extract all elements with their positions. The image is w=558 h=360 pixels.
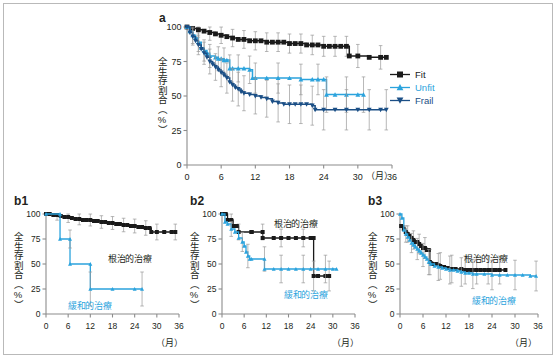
axis-title-y-b1: 全生存割合（%） xyxy=(13,232,23,309)
svg-text:25: 25 xyxy=(207,284,217,294)
chart-b1-plot: 0255075100061218243036 xyxy=(10,194,190,356)
annotation-curative-b2: 根治的治療 xyxy=(274,217,318,230)
panel-label-b3: b3 xyxy=(368,194,382,208)
svg-text:18: 18 xyxy=(464,321,474,331)
svg-text:75: 75 xyxy=(207,234,217,244)
panel-a: a 全生存割合（%） （月） 0255075100061218243036 xyxy=(147,9,407,189)
legend-label-fit: Fit xyxy=(415,69,426,80)
svg-text:0: 0 xyxy=(176,160,181,170)
svg-text:24: 24 xyxy=(130,321,140,331)
panel-label-a: a xyxy=(159,11,166,25)
legend-item-frail: Frail xyxy=(389,94,435,107)
axis-title-y-b2: 全生存割合（%） xyxy=(189,232,199,309)
axis-title-x-b3: （月） xyxy=(510,336,537,349)
annotation-palliative-b3: 緩和的治療 xyxy=(472,294,516,307)
svg-text:6: 6 xyxy=(421,321,426,331)
svg-text:24: 24 xyxy=(319,172,329,182)
annotation-palliative-b2: 緩和的治療 xyxy=(284,288,328,301)
svg-text:24: 24 xyxy=(306,321,316,331)
svg-text:30: 30 xyxy=(152,321,162,331)
legend-label-unfit: Unfit xyxy=(415,82,435,93)
svg-text:36: 36 xyxy=(350,321,360,331)
svg-text:12: 12 xyxy=(441,321,451,331)
chart-a-legend: Fit Unfit Frail xyxy=(389,68,435,107)
legend-swatch-fit xyxy=(389,69,411,80)
svg-text:0: 0 xyxy=(390,309,395,319)
svg-text:18: 18 xyxy=(284,321,294,331)
svg-text:18: 18 xyxy=(284,172,294,182)
svg-text:36: 36 xyxy=(174,321,184,331)
panel-b1: b1 全生存割合（%） （月） 根治的治療 緩和的治療 025507510006… xyxy=(10,194,190,356)
svg-text:50: 50 xyxy=(31,259,41,269)
panel-b2: b2 全生存割合（%） （月） 根治的治療 緩和的治療 025507510006… xyxy=(186,194,366,356)
axis-title-x-b1: （月） xyxy=(156,336,183,349)
annotation-palliative-b1: 緩和的治療 xyxy=(68,299,112,312)
chart-a-plot: 0255075100061218243036 xyxy=(147,9,407,189)
svg-text:6: 6 xyxy=(66,321,71,331)
svg-text:25: 25 xyxy=(385,284,395,294)
svg-text:25: 25 xyxy=(31,284,41,294)
svg-text:75: 75 xyxy=(31,234,41,244)
svg-text:36: 36 xyxy=(533,321,543,331)
svg-text:100: 100 xyxy=(380,209,394,219)
svg-text:30: 30 xyxy=(510,321,520,331)
svg-text:75: 75 xyxy=(385,234,395,244)
axis-title-x-b2: （月） xyxy=(332,336,359,349)
svg-text:12: 12 xyxy=(86,321,96,331)
panel-label-b2: b2 xyxy=(190,194,204,208)
svg-text:50: 50 xyxy=(385,259,395,269)
legend-item-fit: Fit xyxy=(389,68,435,81)
svg-text:0: 0 xyxy=(212,309,217,319)
svg-text:18: 18 xyxy=(108,321,118,331)
annotation-curative-b3: 根治的治療 xyxy=(464,252,508,265)
svg-text:0: 0 xyxy=(36,309,41,319)
axis-title-y-a: 全生存割合（%） xyxy=(157,57,167,134)
svg-text:25: 25 xyxy=(171,126,181,136)
svg-text:24: 24 xyxy=(487,321,497,331)
svg-text:6: 6 xyxy=(219,172,224,182)
annotation-curative-b1: 根治的治療 xyxy=(108,252,152,265)
svg-text:100: 100 xyxy=(202,209,216,219)
svg-text:0: 0 xyxy=(184,172,189,182)
svg-text:100: 100 xyxy=(166,22,181,32)
figure-frame: a 全生存割合（%） （月） 0255075100061218243036 Fi… xyxy=(3,3,553,355)
svg-text:30: 30 xyxy=(328,321,338,331)
legend-swatch-frail xyxy=(389,95,411,106)
axis-title-y-b3: 全生存割合（%） xyxy=(367,232,377,309)
svg-text:0: 0 xyxy=(220,321,225,331)
svg-text:50: 50 xyxy=(207,259,217,269)
svg-text:75: 75 xyxy=(171,57,181,67)
legend-label-frail: Frail xyxy=(415,95,433,106)
legend-item-unfit: Unfit xyxy=(389,81,435,94)
svg-text:30: 30 xyxy=(353,172,363,182)
svg-text:50: 50 xyxy=(171,91,181,101)
legend-swatch-unfit xyxy=(389,82,411,93)
svg-text:12: 12 xyxy=(250,172,260,182)
svg-text:6: 6 xyxy=(242,321,247,331)
svg-text:100: 100 xyxy=(26,209,40,219)
axis-title-x-a: （月） xyxy=(366,169,393,182)
svg-text:12: 12 xyxy=(262,321,272,331)
chart-b3-plot: 0255075100061218243036 xyxy=(364,194,550,356)
svg-text:0: 0 xyxy=(398,321,403,331)
panel-label-b1: b1 xyxy=(14,194,28,208)
panel-b3: b3 全生存割合（%） （月） 根治的治療 緩和的治療 025507510006… xyxy=(364,194,550,356)
svg-text:0: 0 xyxy=(44,321,49,331)
